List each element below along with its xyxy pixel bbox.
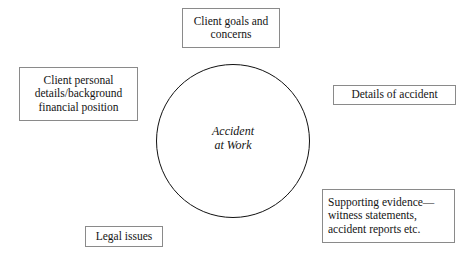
central-label-line: Accident [212,124,254,139]
central-label-line: at Work [212,138,254,153]
node-client-goals[interactable]: Client goals and concerns [182,8,280,48]
node-line: Client personal [44,74,114,87]
node-line: witness statements, [328,209,417,222]
node-line: Legal issues [96,230,153,243]
node-line: accident reports etc. [328,223,420,236]
node-line: Details of accident [351,88,437,101]
node-supporting-evidence[interactable]: Supporting evidence— witness statements,… [322,189,455,243]
node-line: concerns [211,28,252,41]
node-line: financial position [38,101,118,114]
node-details-of-accident[interactable]: Details of accident [333,85,456,105]
node-line: Supporting evidence— [328,196,434,209]
node-legal-issues[interactable]: Legal issues [85,226,163,247]
central-circle-node[interactable]: Accident at Work [156,64,310,218]
diagram-canvas: Client goals and concerns Client persona… [0,0,469,259]
node-client-personal[interactable]: Client personal details/background finan… [19,67,138,121]
node-line: Client goals and [194,15,269,28]
central-circle-label: Accident at Work [212,124,254,153]
node-line: details/background [35,87,123,100]
